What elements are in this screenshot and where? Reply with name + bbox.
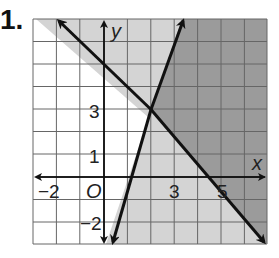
origin-label: O (86, 180, 102, 202)
y-tick-1: 1 (89, 146, 100, 167)
x-tick-5: 5 (217, 181, 228, 202)
y-tick-3: 3 (89, 101, 100, 122)
y-axis-label: y (109, 20, 122, 42)
coordinate-graph: y x 3 1 −2 −2 O 3 5 (0, 0, 279, 258)
x-axis-label: x (251, 152, 263, 174)
y-tick-neg2: −2 (80, 213, 102, 234)
x-tick-neg2: −2 (38, 181, 60, 202)
x-tick-3: 3 (169, 181, 180, 202)
